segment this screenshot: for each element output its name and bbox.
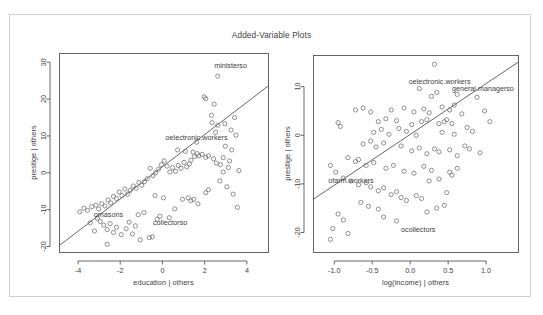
- x-tick-label: -4: [75, 266, 81, 275]
- data-point: [111, 194, 115, 198]
- data-point: [427, 179, 431, 183]
- y-tick-label: -10: [40, 204, 49, 214]
- y-axis-title-left: prestige | others: [29, 53, 38, 252]
- data-point: [369, 139, 373, 143]
- y-tick-label: 10: [294, 83, 303, 91]
- data-point: [419, 196, 423, 200]
- data-point: [192, 154, 196, 158]
- data-point: [136, 213, 140, 217]
- x-axis-left: -4-2024: [75, 261, 249, 275]
- data-point: [221, 170, 225, 174]
- data-point: [417, 146, 421, 150]
- data-point: [108, 222, 112, 226]
- data-point: [90, 205, 94, 209]
- data-point: [442, 203, 446, 207]
- data-point: [237, 168, 241, 172]
- figure-root: Added-Variable Plots -4-2024-20-10010203…: [0, 0, 543, 315]
- data-point: [210, 121, 214, 125]
- data-point: [369, 110, 373, 114]
- data-point: [328, 163, 332, 167]
- data-point: [404, 129, 408, 133]
- plot-area-left: -4-2024-20-100102030ministersooelectroni…: [20, 40, 282, 292]
- point-label: collectorso: [153, 218, 187, 227]
- data-point: [482, 109, 486, 113]
- data-point: [223, 122, 227, 126]
- data-point: [124, 227, 128, 231]
- data-point: [165, 164, 169, 168]
- data-point: [231, 192, 235, 196]
- data-point: [488, 120, 492, 124]
- data-point: [233, 115, 237, 119]
- data-point: [209, 113, 213, 117]
- data-point: [414, 133, 418, 137]
- point-label: ocollectors: [401, 225, 436, 234]
- y-axis-right: -20-10010: [294, 83, 305, 238]
- y-tick-label: 30: [40, 58, 49, 66]
- data-point: [183, 149, 187, 153]
- y-tick-label: 0: [40, 171, 49, 175]
- data-point: [422, 164, 426, 168]
- data-point: [334, 170, 338, 174]
- data-point: [376, 207, 380, 211]
- y-tick-label: 0: [294, 133, 303, 137]
- data-point: [105, 242, 109, 246]
- data-point: [417, 86, 421, 90]
- data-point: [440, 130, 444, 134]
- data-point: [106, 198, 110, 202]
- data-point: [399, 195, 403, 199]
- data-point: [445, 191, 449, 195]
- data-point: [366, 204, 370, 208]
- data-point: [180, 197, 184, 201]
- point-label: oelectronic.workers: [166, 133, 228, 142]
- data-point: [102, 223, 106, 227]
- data-point: [412, 171, 416, 175]
- data-point: [412, 110, 416, 114]
- data-point: [382, 186, 386, 190]
- data-point: [475, 95, 479, 99]
- data-point: [450, 121, 454, 125]
- data-point: [356, 157, 360, 161]
- data-point: [410, 122, 414, 126]
- data-point: [425, 210, 429, 214]
- data-point: [384, 166, 388, 170]
- data-point: [435, 90, 439, 94]
- data-point: [437, 121, 441, 125]
- data-point: [394, 219, 398, 223]
- y-axis-title-right: prestige | others: [283, 55, 292, 252]
- data-point: [162, 159, 166, 163]
- data-point: [216, 74, 220, 78]
- data-point: [100, 202, 104, 206]
- data-point: [346, 156, 350, 160]
- data-point: [382, 141, 386, 145]
- data-point: [336, 121, 340, 125]
- data-point: [182, 160, 186, 164]
- data-point: [230, 148, 234, 152]
- data-point: [227, 159, 231, 163]
- data-point: [369, 185, 373, 189]
- data-point: [234, 133, 238, 137]
- data-point: [336, 212, 340, 216]
- data-point: [161, 196, 165, 200]
- point-label: general.managerso: [452, 84, 514, 93]
- data-point: [147, 236, 151, 240]
- x-tick-label: 0.0: [405, 266, 415, 275]
- data-point: [435, 206, 439, 210]
- data-point: [176, 148, 180, 152]
- data-point: [353, 108, 357, 112]
- data-point: [353, 159, 357, 163]
- data-point: [372, 160, 376, 164]
- data-point: [223, 144, 227, 148]
- data-point: [382, 215, 386, 219]
- data-point: [170, 166, 174, 170]
- data-point: [455, 154, 459, 158]
- data-point: [387, 132, 391, 136]
- data-point: [359, 200, 363, 204]
- data-point: [402, 169, 406, 173]
- x-axis-title-left: education | others: [59, 278, 268, 287]
- y-axis-left: -20-100102030: [40, 58, 51, 251]
- data-point: [94, 203, 98, 207]
- data-point: [422, 107, 426, 111]
- data-point: [404, 198, 408, 202]
- figure-title: Added-Variable Plots: [0, 31, 543, 40]
- data-point: [111, 230, 115, 234]
